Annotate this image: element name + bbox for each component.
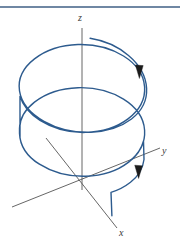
x-axis-line <box>46 138 117 228</box>
arrowhead-group <box>135 65 144 179</box>
figure-canvas <box>0 0 180 251</box>
x-axis-label: x <box>119 228 123 238</box>
helix-figure: z y x <box>0 0 180 251</box>
y-axis-label: y <box>162 146 166 156</box>
helix-group <box>19 38 146 216</box>
z-axis-label: z <box>78 13 82 23</box>
y-axis-line <box>12 148 160 207</box>
helix-curve <box>19 38 146 216</box>
axis-group <box>12 28 160 228</box>
